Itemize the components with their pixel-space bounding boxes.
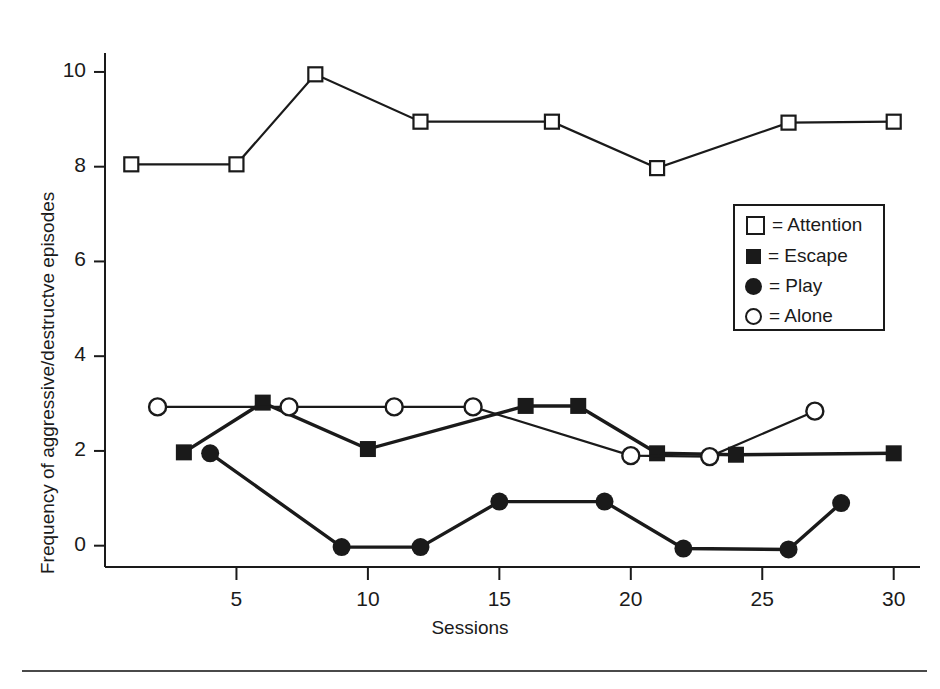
legend-item-alone: = Alone (745, 301, 833, 331)
x-tick-label: 5 (214, 587, 258, 611)
y-tick-label: 10 (46, 58, 86, 82)
y-tick-label: 0 (46, 532, 86, 556)
data-point-filled-square (176, 444, 192, 460)
data-point-open-circle (149, 398, 166, 415)
chart-legend: = Attention = Escape = Play = Alone (733, 204, 885, 331)
x-tick-label: 20 (609, 587, 653, 611)
open-square-icon (746, 216, 765, 235)
data-point-open-circle (386, 398, 403, 415)
y-tick-label: 4 (46, 342, 86, 366)
data-point-open-square (413, 115, 427, 129)
data-point-filled-circle (780, 540, 798, 558)
legend-label-play: = Play (769, 275, 822, 297)
x-tick-label: 15 (477, 587, 521, 611)
series-play (201, 444, 850, 558)
data-point-filled-circle (596, 493, 614, 511)
open-circle-icon (745, 308, 762, 325)
data-point-open-square (887, 115, 901, 129)
legend-label-escape: = Escape (768, 245, 848, 267)
data-point-open-square (308, 67, 322, 81)
data-point-open-square (545, 115, 559, 129)
x-tick-label: 25 (740, 587, 784, 611)
x-tick-label: 10 (346, 587, 390, 611)
y-tick-label: 2 (46, 437, 86, 461)
footer-divider (22, 670, 927, 672)
data-point-filled-square (728, 447, 744, 463)
data-point-open-circle (806, 403, 823, 420)
legend-label-alone: = Alone (769, 305, 833, 327)
legend-item-escape: = Escape (745, 241, 848, 271)
data-point-filled-square (570, 398, 586, 414)
data-point-open-square (229, 157, 243, 171)
data-point-open-square (650, 161, 664, 175)
data-point-filled-circle (201, 444, 219, 462)
data-point-filled-circle (411, 538, 429, 556)
data-point-filled-circle (333, 538, 351, 556)
data-point-open-square (782, 116, 796, 130)
y-tick-label: 8 (46, 153, 86, 177)
data-point-filled-square (255, 395, 271, 411)
filled-square-icon (746, 249, 761, 264)
data-point-filled-circle (490, 493, 508, 511)
data-point-open-circle (465, 398, 482, 415)
data-point-open-circle (701, 448, 718, 465)
y-tick-label: 6 (46, 247, 86, 271)
data-point-open-circle (622, 447, 639, 464)
data-point-filled-square (649, 445, 665, 461)
data-point-filled-circle (832, 494, 850, 512)
data-point-open-circle (281, 398, 298, 415)
data-point-filled-square (518, 398, 534, 414)
filled-circle-icon (745, 278, 762, 295)
data-point-open-square (124, 157, 138, 171)
figure-canvas: Frequency of aggressive/destructve episo… (0, 0, 940, 689)
legend-item-play: = Play (745, 271, 822, 301)
legend-label-attention: = Attention (772, 214, 862, 236)
data-point-filled-circle (674, 540, 692, 558)
x-axis-label: Sessions (0, 617, 940, 639)
data-point-filled-square (360, 441, 376, 457)
data-point-filled-square (886, 445, 902, 461)
chart-plot-area (0, 0, 940, 689)
legend-item-attention: = Attention (745, 210, 862, 240)
series-attention (124, 67, 900, 175)
x-tick-label: 30 (872, 587, 916, 611)
